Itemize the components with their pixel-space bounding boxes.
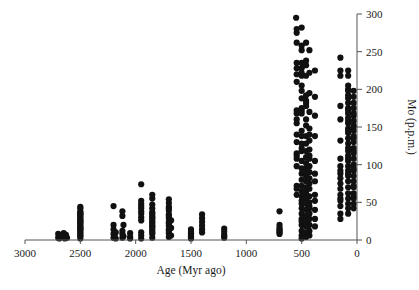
x-tick-labels: 300025002000150010005000 (14, 247, 360, 259)
data-point (351, 100, 357, 106)
data-point (77, 226, 83, 232)
data-points-layer (55, 15, 357, 242)
data-point (312, 171, 318, 177)
data-point (312, 94, 318, 100)
data-point (306, 216, 312, 222)
data-point (312, 67, 318, 73)
y-tick-label: 50 (366, 196, 378, 208)
data-point (113, 235, 119, 241)
data-point (166, 205, 172, 211)
data-point (312, 133, 318, 139)
data-point (149, 218, 155, 224)
data-point (77, 211, 83, 217)
data-point (306, 131, 312, 137)
data-point (351, 165, 357, 171)
data-point (110, 222, 116, 228)
data-point (138, 203, 144, 209)
x-tick-label: 2000 (125, 247, 148, 259)
data-point (337, 175, 343, 181)
data-point (299, 110, 305, 116)
data-point (303, 62, 309, 68)
data-point (306, 137, 312, 143)
y-tick-label: 300 (366, 8, 383, 20)
data-point (110, 203, 116, 209)
data-point (345, 145, 351, 151)
data-point (312, 113, 318, 119)
data-point (138, 217, 144, 223)
data-point (306, 70, 312, 76)
data-point (293, 15, 299, 21)
data-point (351, 183, 357, 189)
data-point (119, 208, 125, 214)
data-point (119, 228, 125, 234)
data-point (149, 201, 155, 207)
data-point (306, 232, 312, 238)
data-point (351, 148, 357, 154)
data-point (303, 116, 309, 122)
data-point (345, 128, 351, 134)
data-point (351, 156, 357, 162)
data-point (294, 79, 300, 85)
data-point (351, 173, 357, 179)
data-point (303, 40, 309, 46)
data-point (306, 211, 312, 217)
data-point (306, 203, 312, 209)
data-point (345, 107, 351, 113)
data-point (345, 73, 351, 79)
y-tick-label: 100 (366, 159, 383, 171)
data-point (168, 232, 174, 238)
data-point (276, 226, 282, 232)
data-point (77, 218, 83, 224)
x-tick-label: 2500 (69, 247, 92, 259)
data-point (138, 198, 144, 204)
data-point (149, 192, 155, 198)
data-point (312, 192, 318, 198)
data-point (351, 122, 357, 128)
data-point (312, 178, 318, 184)
data-point (337, 168, 343, 174)
data-point (312, 223, 318, 229)
data-point (351, 193, 357, 199)
data-point (303, 103, 309, 109)
data-point (337, 55, 343, 61)
data-point (345, 205, 351, 211)
data-point (294, 30, 300, 36)
data-point (168, 225, 174, 231)
data-point (306, 47, 312, 53)
x-tick-label: 0 (354, 247, 360, 259)
data-point (221, 233, 227, 239)
x-tick-label: 3000 (14, 247, 37, 259)
data-point (306, 169, 312, 175)
x-tick-label: 1000 (235, 247, 258, 259)
data-point (127, 235, 133, 241)
data-point (337, 203, 343, 209)
data-point (299, 88, 305, 94)
data-point (337, 195, 343, 201)
data-point (306, 193, 312, 199)
data-point (312, 207, 318, 213)
data-point (299, 47, 305, 53)
y-tick-labels: 050100150200250300 (366, 8, 383, 246)
data-point (337, 73, 343, 79)
data-point (306, 90, 312, 96)
data-point (351, 205, 357, 211)
x-axis-ticks (25, 240, 357, 244)
data-point (306, 147, 312, 153)
data-point (221, 226, 227, 232)
data-point (306, 153, 312, 159)
data-point (306, 186, 312, 192)
y-tick-label: 0 (366, 234, 372, 246)
data-point (276, 208, 282, 214)
data-point (345, 190, 351, 196)
data-point (77, 204, 83, 210)
data-point (299, 24, 305, 30)
y-tick-label: 200 (366, 83, 383, 95)
data-point (345, 100, 351, 106)
data-point (306, 180, 312, 186)
data-point (120, 233, 126, 239)
data-point (337, 156, 343, 162)
data-point (306, 222, 312, 228)
data-point (337, 211, 343, 217)
data-point (345, 178, 351, 184)
data-point (149, 225, 155, 231)
